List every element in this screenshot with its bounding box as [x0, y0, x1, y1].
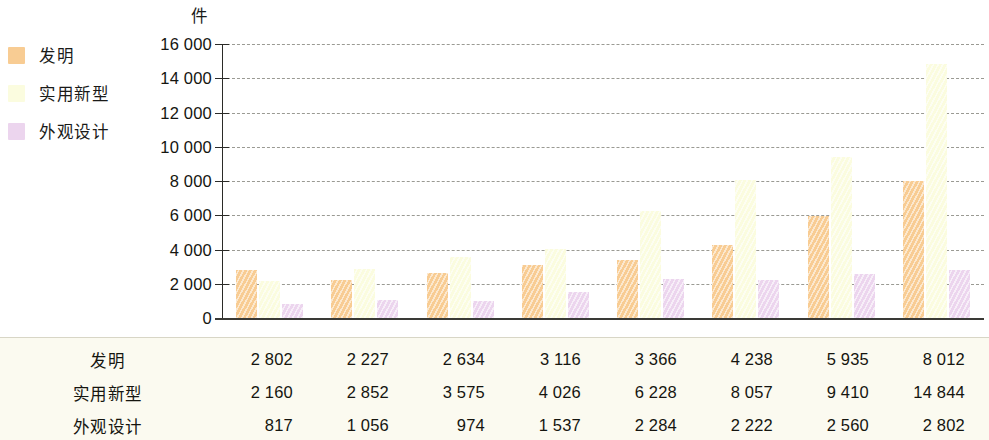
- table-cell: 2 560: [791, 416, 887, 435]
- table-cell: 2 802: [215, 350, 311, 369]
- bar-chart: 16 00014 00012 00010 0008 0006 0004 0002…: [0, 30, 989, 335]
- y-axis-tick-labels: 16 00014 00012 00010 0008 0006 0004 0002…: [128, 44, 212, 318]
- table-cell: 2 227: [311, 350, 407, 369]
- y-axis-tick: [215, 215, 229, 216]
- bar-group: [331, 44, 398, 318]
- bar-group: [903, 44, 970, 318]
- bar: [450, 257, 471, 318]
- bar: [617, 260, 638, 318]
- table-cell: 14 844: [887, 383, 983, 402]
- y-axis-tick-label: 4 000: [132, 240, 212, 259]
- y-axis-tick: [215, 284, 229, 285]
- y-axis-tick-label: 2 000: [132, 274, 212, 293]
- bar: [854, 274, 875, 318]
- bar: [473, 301, 494, 318]
- y-axis-tick-label: 16 000: [132, 35, 212, 54]
- bar: [522, 265, 543, 318]
- table-row: 外观设计8171 0569741 5372 2842 2222 5602 802: [0, 410, 989, 440]
- table-cell: 8 057: [695, 383, 791, 402]
- y-axis-tick-label: 0: [132, 309, 212, 328]
- y-axis-tick: [215, 181, 229, 182]
- table-cell: 1 056: [311, 416, 407, 435]
- bar: [545, 249, 566, 318]
- bar: [377, 300, 398, 318]
- y-axis-tick-label: 10 000: [132, 137, 212, 156]
- table-row: 实用新型2 1602 8523 5754 0266 2288 0579 4101…: [0, 377, 989, 408]
- table-cell: 974: [407, 416, 503, 435]
- bar: [831, 157, 852, 318]
- table-row-label: 实用新型: [0, 381, 215, 405]
- bar: [949, 270, 970, 318]
- bar-group: [712, 44, 779, 318]
- table-row-label: 发明: [0, 348, 215, 372]
- x-axis-line: [215, 318, 984, 320]
- bar-group: [522, 44, 589, 318]
- plot-area: 20062007200820092010201120122013: [222, 44, 984, 318]
- table-cell: 3 116: [503, 350, 599, 369]
- bar: [331, 280, 352, 318]
- table-cell: 8 012: [887, 350, 983, 369]
- table-cell: 3 575: [407, 383, 503, 402]
- y-axis-tick-label: 6 000: [132, 206, 212, 225]
- bar: [903, 181, 924, 318]
- table-cell: 3 366: [599, 350, 695, 369]
- table-cell: 2 160: [215, 383, 311, 402]
- y-axis-tick: [215, 250, 229, 251]
- table-cell: 2 852: [311, 383, 407, 402]
- bar: [640, 211, 661, 318]
- table-cell: 2 802: [887, 416, 983, 435]
- chart-page: 发明实用新型外观设计 件 16 00014 00012 00010 0008 0…: [0, 0, 989, 440]
- table-row-label: 外观设计: [0, 414, 215, 438]
- y-axis-tick-label: 14 000: [132, 69, 212, 88]
- table-cell: 9 410: [791, 383, 887, 402]
- y-axis-tick-label: 12 000: [132, 103, 212, 122]
- y-axis-unit-label: 件: [191, 3, 208, 27]
- bar-group: [617, 44, 684, 318]
- table-cell: 2 634: [407, 350, 503, 369]
- table-cell: 2 284: [599, 416, 695, 435]
- bar: [758, 280, 779, 318]
- bar: [926, 64, 947, 318]
- table-cell: 817: [215, 416, 311, 435]
- bar: [282, 304, 303, 318]
- bar-group: [236, 44, 303, 318]
- y-axis-tick: [215, 147, 229, 148]
- bar: [568, 292, 589, 318]
- table-cell: 5 935: [791, 350, 887, 369]
- bar: [236, 270, 257, 318]
- y-axis-tick-label: 8 000: [132, 172, 212, 191]
- bar: [808, 216, 829, 318]
- bar: [427, 273, 448, 318]
- table-cell: 1 537: [503, 416, 599, 435]
- table-row: 发明2 8022 2272 6343 1163 3664 2385 9358 0…: [0, 344, 989, 375]
- table-cell: 6 228: [599, 383, 695, 402]
- table-cell: 4 238: [695, 350, 791, 369]
- bar: [259, 281, 280, 318]
- bar: [735, 180, 756, 318]
- y-axis-tick: [215, 78, 229, 79]
- bar: [354, 269, 375, 318]
- bar-group: [808, 44, 875, 318]
- bar: [712, 245, 733, 318]
- table-cell: 4 026: [503, 383, 599, 402]
- bar-group: [427, 44, 494, 318]
- bar: [663, 279, 684, 318]
- table-cell: 2 222: [695, 416, 791, 435]
- data-table: 发明2 8022 2272 6343 1163 3664 2385 9358 0…: [0, 337, 989, 440]
- y-axis-tick: [215, 113, 229, 114]
- y-axis-tick: [215, 44, 229, 45]
